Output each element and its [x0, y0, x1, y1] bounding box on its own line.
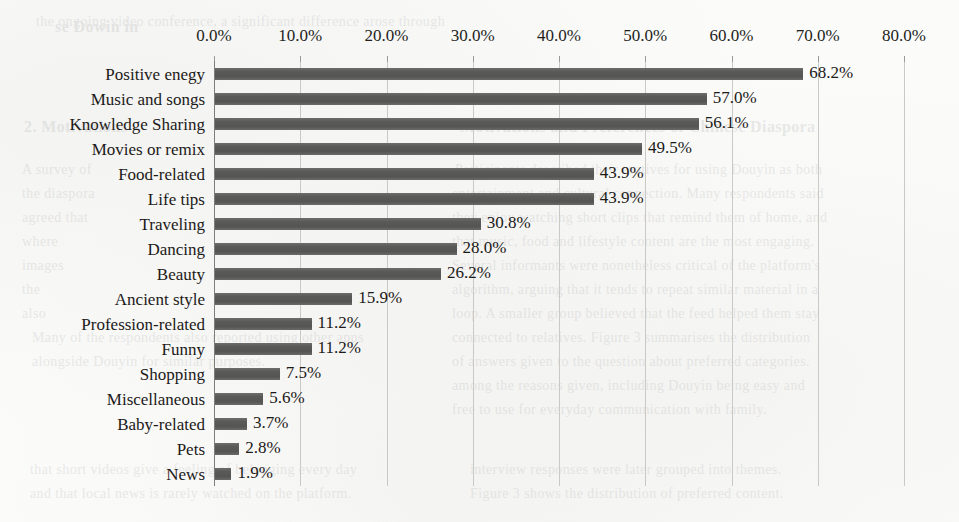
bar-row: Movies or remix49.5%: [214, 136, 904, 162]
category-label: Miscellaneous: [107, 391, 205, 408]
x-axis-tick-label: 30.0%: [451, 26, 495, 46]
bar-row: Positive enegy68.2%: [214, 61, 904, 87]
category-label: Music and songs: [91, 91, 205, 108]
bar: [215, 443, 239, 455]
x-axis-tick-label: 70.0%: [796, 26, 840, 46]
category-label: Dancing: [147, 241, 205, 258]
bar-row: Life tips43.9%: [214, 186, 904, 212]
bar: [215, 468, 231, 480]
bar: [215, 118, 699, 130]
bar: [215, 393, 263, 405]
x-axis-tick-label: 0.0%: [196, 26, 231, 46]
bar: [215, 293, 352, 305]
bar: [215, 318, 312, 330]
category-label: Shopping: [140, 366, 205, 383]
bar-row: News1.9%: [214, 461, 904, 487]
bar-value-label: 3.7%: [253, 414, 288, 433]
bar: [215, 93, 707, 105]
bar-row: Food-related43.9%: [214, 161, 904, 187]
bar-row: Miscellaneous5.6%: [214, 386, 904, 412]
bar-row: Baby-related3.7%: [214, 411, 904, 437]
category-label: Profession-related: [81, 316, 205, 333]
bar: [215, 268, 441, 280]
bar: [215, 193, 594, 205]
x-axis-tickmark: [904, 56, 905, 62]
x-axis-tick-label: 80.0%: [882, 26, 926, 46]
bar-row: Profession-related11.2%: [214, 311, 904, 337]
category-label: Beauty: [157, 266, 205, 283]
bar-value-label: 5.6%: [269, 389, 304, 408]
bar-value-label: 7.5%: [286, 364, 321, 383]
bar-value-label: 11.2%: [318, 339, 361, 358]
category-label: Life tips: [148, 191, 205, 208]
bar-chart: 0.0%10.0%20.0%30.0%40.0%50.0%60.0%70.0%8…: [0, 0, 959, 522]
bar-value-label: 28.0%: [463, 239, 507, 258]
gridline: [904, 61, 905, 486]
bar-row: Funny11.2%: [214, 336, 904, 362]
bar-row: Music and songs57.0%: [214, 86, 904, 112]
category-label: Movies or remix: [92, 141, 205, 158]
category-label: News: [166, 466, 205, 483]
bar-value-label: 15.9%: [358, 289, 402, 308]
category-label: Traveling: [140, 216, 206, 233]
bar-row: Pets2.8%: [214, 436, 904, 462]
category-label: Funny: [162, 341, 205, 358]
bar-row: Knowledge Sharing56.1%: [214, 111, 904, 137]
bar-value-label: 26.2%: [447, 264, 491, 283]
x-axis-tick-label: 40.0%: [537, 26, 581, 46]
bar-value-label: 1.9%: [237, 464, 272, 483]
x-axis-tick-label: 60.0%: [710, 26, 754, 46]
bar: [215, 368, 280, 380]
category-label: Pets: [177, 441, 205, 458]
category-label: Knowledge Sharing: [69, 116, 205, 133]
bar: [215, 418, 247, 430]
bar-rows: Positive enegy68.2%Music and songs57.0%K…: [214, 61, 904, 486]
bar-value-label: 57.0%: [713, 89, 757, 108]
bar-value-label: 2.8%: [245, 439, 280, 458]
bar-value-label: 43.9%: [600, 164, 644, 183]
x-axis-tick-label: 10.0%: [278, 26, 322, 46]
bar: [215, 68, 803, 80]
bar-value-label: 49.5%: [648, 139, 692, 158]
category-label: Baby-related: [117, 416, 205, 433]
bar: [215, 143, 642, 155]
bar-row: Shopping7.5%: [214, 361, 904, 387]
bar-row: Traveling30.8%: [214, 211, 904, 237]
bar-row: Ancient style15.9%: [214, 286, 904, 312]
bar-row: Beauty26.2%: [214, 261, 904, 287]
bar: [215, 218, 481, 230]
bar-value-label: 68.2%: [809, 64, 853, 83]
x-axis-tick-label: 20.0%: [365, 26, 409, 46]
x-axis-tick-label: 50.0%: [623, 26, 667, 46]
bar-value-label: 43.9%: [600, 189, 644, 208]
bar: [215, 243, 457, 255]
bar-row: Dancing28.0%: [214, 236, 904, 262]
category-label: Ancient style: [115, 291, 205, 308]
bar-value-label: 30.8%: [487, 214, 531, 233]
category-label: Positive enegy: [105, 66, 205, 83]
bar-value-label: 11.2%: [318, 314, 361, 333]
bar-value-label: 56.1%: [705, 114, 749, 133]
bar: [215, 168, 594, 180]
category-label: Food-related: [118, 166, 205, 183]
plot-area: Positive enegy68.2%Music and songs57.0%K…: [214, 61, 904, 486]
bar: [215, 343, 312, 355]
